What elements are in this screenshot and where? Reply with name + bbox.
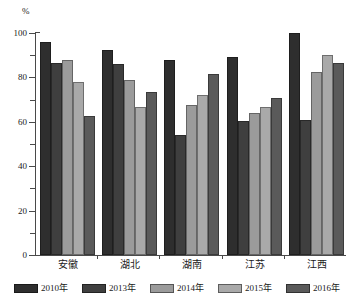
legend-item[interactable]: 2016年 xyxy=(286,283,340,293)
y-axis-tick-label-text: 80 xyxy=(1,73,27,82)
legend-swatch-icon xyxy=(218,284,242,293)
bar xyxy=(322,55,333,255)
bar xyxy=(227,57,238,255)
bar xyxy=(238,121,249,255)
y-axis-tick-label: 0 xyxy=(0,251,27,260)
legend-label: 2015年 xyxy=(245,283,272,293)
x-axis-category-label: 安徽 xyxy=(37,258,99,272)
bar xyxy=(175,135,186,255)
bar xyxy=(135,107,146,255)
bar-group xyxy=(227,33,282,255)
bar-group xyxy=(164,33,219,255)
y-axis-tick-label: 20 xyxy=(0,207,27,216)
legend-label: 2013年 xyxy=(109,283,136,293)
y-axis-tick-label-text: 20 xyxy=(1,207,27,216)
legend-label: 2014年 xyxy=(177,283,204,293)
legend-item[interactable]: 2010年 xyxy=(14,283,68,293)
y-axis-tick-label-text: 0 xyxy=(1,251,27,260)
bar xyxy=(62,60,73,255)
bar xyxy=(51,63,62,255)
legend-swatch-icon xyxy=(286,284,310,293)
bar xyxy=(249,113,260,255)
x-axis-category-label: 江苏 xyxy=(224,258,286,272)
x-axis-tick xyxy=(97,255,98,259)
legend-swatch-icon xyxy=(82,284,106,293)
x-axis-tick xyxy=(284,255,285,259)
legend-swatch-icon xyxy=(150,284,174,293)
legend-label: 2010年 xyxy=(41,283,68,293)
bar xyxy=(271,98,282,255)
x-axis-category-label: 江西 xyxy=(286,258,348,272)
bar xyxy=(124,80,135,255)
x-axis-category-labels: 安徽湖北湖南江苏江西 xyxy=(35,258,346,274)
bar-group xyxy=(40,33,95,255)
y-axis-tick-label: 60 xyxy=(0,118,27,127)
x-axis-category-label: 湖北 xyxy=(99,258,161,272)
y-axis-tick-label: 40 xyxy=(0,162,27,171)
bar-group xyxy=(102,33,157,255)
y-axis-tick-label: 100 xyxy=(0,29,27,38)
bar-group xyxy=(289,33,344,255)
bar xyxy=(40,42,51,255)
bar xyxy=(311,72,322,255)
legend-item[interactable]: 2014年 xyxy=(150,283,204,293)
x-axis-category-label: 湖南 xyxy=(161,258,223,272)
chart-legend: 2010年2013年2014年2015年2016年 xyxy=(14,281,340,295)
y-axis-tick-label-text: 100 xyxy=(1,29,27,38)
legend-swatch-icon xyxy=(14,284,38,293)
bar xyxy=(146,92,157,255)
y-axis-tick-label-text: 40 xyxy=(1,162,27,171)
legend-item[interactable]: 2015年 xyxy=(218,283,272,293)
y-axis-tick-label: 80 xyxy=(0,73,27,82)
bar xyxy=(164,60,175,255)
y-axis-tick-label-text: 60 xyxy=(1,118,27,127)
bar xyxy=(260,107,271,255)
bar xyxy=(84,116,95,255)
bar xyxy=(186,105,197,255)
legend-label: 2016年 xyxy=(313,283,340,293)
y-axis-major-tick xyxy=(29,255,35,256)
bar xyxy=(208,74,219,255)
bars-layer xyxy=(35,33,346,255)
bar-chart: % 020406080100 安徽湖北湖南江苏江西 2010年2013年2014… xyxy=(0,0,352,302)
legend-item[interactable]: 2013年 xyxy=(82,283,136,293)
bar xyxy=(73,82,84,255)
bar xyxy=(289,33,300,255)
bar xyxy=(300,120,311,255)
bar xyxy=(333,63,344,255)
bar xyxy=(197,95,208,255)
bar xyxy=(102,50,113,255)
x-axis-tick xyxy=(159,255,160,259)
bar xyxy=(113,64,124,255)
x-axis-tick xyxy=(222,255,223,259)
y-axis-unit-label: % xyxy=(22,6,30,16)
x-axis-line xyxy=(35,255,346,256)
